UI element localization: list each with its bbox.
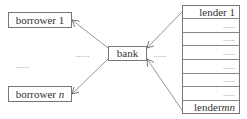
lender-row-ellipsis: ...... bbox=[183, 46, 239, 60]
arrow-lender1-to-bank bbox=[147, 12, 182, 48]
lender-row-ellipsis: ...... bbox=[183, 87, 239, 101]
borrower-n-node: borrower n bbox=[8, 86, 72, 102]
arrow-lendermn-to-bank bbox=[147, 59, 182, 110]
lender-stack: lender 1 ...... ...... ...... ...... ...… bbox=[182, 5, 240, 114]
borrower-ellipsis: ...... bbox=[16, 60, 30, 70]
lender-row-ellipsis: ...... bbox=[183, 60, 239, 74]
bank-label: bank bbox=[117, 48, 138, 59]
lender-row-ellipsis: ...... bbox=[183, 74, 239, 88]
borrower-1-node: borrower 1 bbox=[8, 12, 72, 28]
lender-row-1: lender 1 bbox=[183, 6, 239, 19]
arrow-bank-to-borrowern bbox=[72, 59, 108, 94]
lender-row-ellipsis: ...... bbox=[183, 33, 239, 47]
borrower-1-label: borrower 1 bbox=[16, 15, 65, 26]
bank-node: bank bbox=[108, 46, 147, 61]
bank-left-ellipsis: ...... bbox=[76, 49, 90, 59]
lender-row-mn: lender mn bbox=[183, 101, 239, 113]
borrower-n-label: borrower n bbox=[16, 89, 65, 100]
bank-right-ellipsis: ...... bbox=[153, 49, 167, 59]
lender-row-ellipsis: ...... bbox=[183, 19, 239, 33]
arrow-bank-to-borrower1 bbox=[72, 20, 108, 48]
